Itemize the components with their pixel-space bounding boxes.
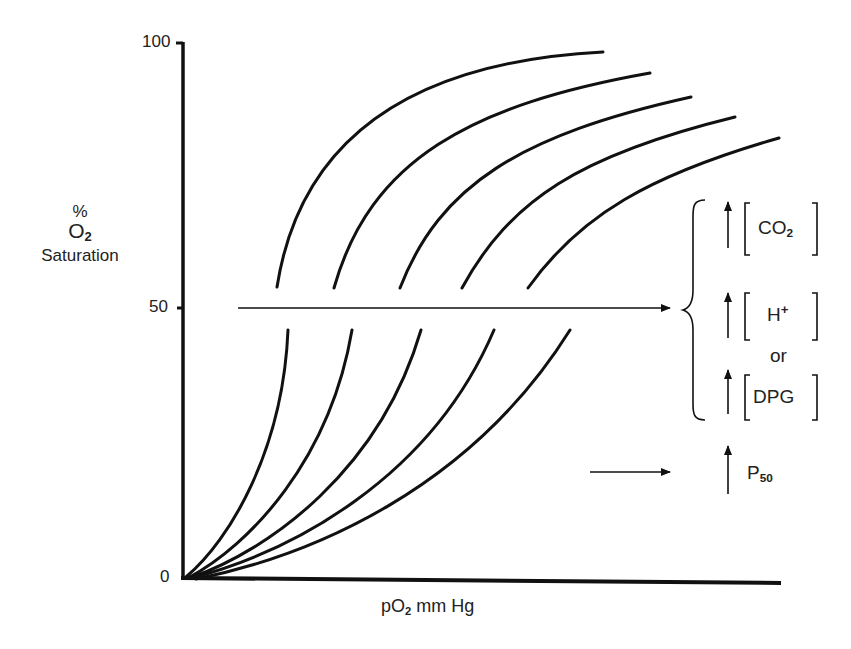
curves-lower xyxy=(186,330,570,579)
y-label-saturation: Saturation xyxy=(30,246,130,265)
factor-co2: CO2 xyxy=(758,217,793,239)
factor-p50: P50 xyxy=(747,462,773,484)
y-tick-0: 0 xyxy=(160,567,169,587)
y-axis-label: % O2 Saturation xyxy=(30,202,130,265)
y-tick-50: 50 xyxy=(149,297,168,317)
x-axis-label: pO2 mm Hg xyxy=(381,596,474,617)
factor-h-plus: H+ xyxy=(767,302,789,326)
factor-or: or xyxy=(770,345,787,367)
y-label-o2: O2 xyxy=(30,221,130,246)
y-tick-100: 100 xyxy=(142,32,170,52)
factor-dpg: DPG xyxy=(753,386,794,408)
brace xyxy=(683,200,705,420)
curves-upper xyxy=(277,52,779,288)
dissociation-chart xyxy=(0,0,851,649)
